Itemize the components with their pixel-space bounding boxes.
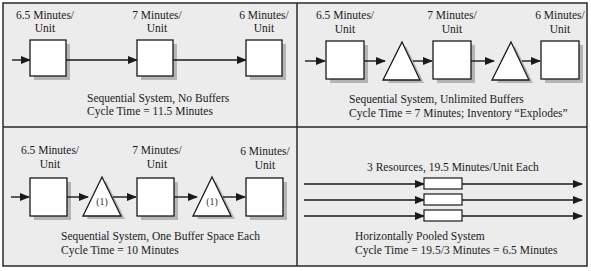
station-2-rate: 7 Minutes/ — [132, 9, 182, 21]
station-3-unit: Unit — [255, 159, 276, 171]
station-2-unit: Unit — [442, 23, 463, 35]
station-1-box — [30, 178, 67, 216]
station-3-unit: Unit — [550, 23, 571, 35]
caption-cycle-time: Cycle Time = 11.5 Minutes — [87, 105, 213, 118]
caption-cycle-time: Cycle Time = 10 Minutes — [61, 244, 179, 257]
station-3-box — [541, 41, 579, 79]
station-1-unit: Unit — [40, 158, 61, 170]
station-3-box — [246, 40, 282, 76]
station-3-box — [246, 178, 283, 216]
resource-3-box — [424, 210, 462, 221]
station-2-box — [433, 41, 471, 79]
station-3-rate: 6 Minutes/ — [535, 9, 585, 21]
buffer-2-capacity: (1) — [206, 196, 218, 208]
pooled-header: 3 Resources, 19.5 Minutes/Unit Each — [367, 161, 539, 174]
station-1-unit: Unit — [35, 22, 56, 34]
figure-frame — [3, 3, 587, 266]
process-flow-figure: 6.5 Minutes/ Unit 7 Minutes/ Unit 6 Minu… — [0, 0, 591, 271]
caption-title: Horizontally Pooled System — [355, 230, 485, 243]
station-1-unit: Unit — [335, 23, 356, 35]
station-2-rate: 7 Minutes/ — [427, 9, 477, 21]
station-2-rate: 7 Minutes/ — [132, 144, 182, 156]
caption-cycle-time: Cycle Time = 7 Minutes; Inventory “Explo… — [349, 107, 568, 120]
station-1-rate: 6.5 Minutes/ — [21, 144, 80, 156]
station-2-unit: Unit — [147, 158, 168, 170]
station-2-box — [137, 40, 173, 76]
station-1-box — [326, 41, 364, 79]
caption-title: Sequential System, Unlimited Buffers — [349, 93, 524, 106]
station-3-unit: Unit — [254, 22, 275, 34]
resource-2-box — [424, 194, 462, 205]
caption-title: Sequential System, No Buffers — [87, 92, 230, 105]
station-2-box — [137, 178, 174, 216]
station-2-unit: Unit — [147, 22, 168, 34]
station-1-rate: 6.5 Minutes/ — [16, 9, 75, 21]
resource-1-box — [424, 178, 462, 189]
buffer-1-capacity: (1) — [96, 196, 108, 208]
station-3-rate: 6 Minutes/ — [240, 145, 290, 157]
station-3-rate: 6 Minutes/ — [239, 9, 289, 21]
caption-title: Sequential System, One Buffer Space Each — [61, 230, 260, 243]
station-1-rate: 6.5 Minutes/ — [316, 9, 375, 21]
station-1-box — [30, 40, 66, 76]
caption-cycle-time: Cycle Time = 19.5/3 Minutes = 6.5 Minute… — [355, 244, 558, 257]
